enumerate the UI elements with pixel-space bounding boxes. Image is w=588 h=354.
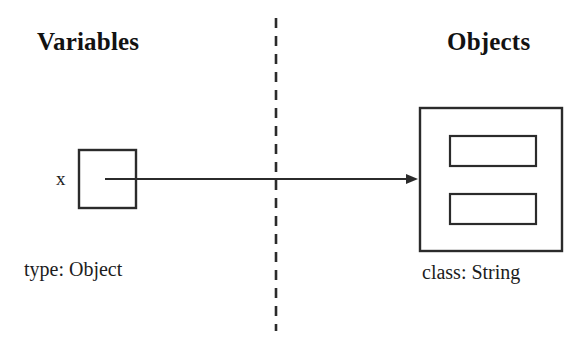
reference-arrow-head <box>406 174 418 184</box>
variables-column-heading: Variables <box>37 28 139 56</box>
memory-diagram: Variables Objects x type: Object class: … <box>0 0 588 354</box>
object-field-slot-1 <box>450 136 536 166</box>
object-class-caption: class: String <box>422 261 520 284</box>
reference-arrow <box>105 174 418 184</box>
variable-name-label: x <box>56 168 66 190</box>
objects-column-heading: Objects <box>447 28 530 56</box>
variable-type-caption: type: Object <box>24 258 122 281</box>
object-box <box>420 108 562 251</box>
object-field-slot-2 <box>450 194 536 224</box>
